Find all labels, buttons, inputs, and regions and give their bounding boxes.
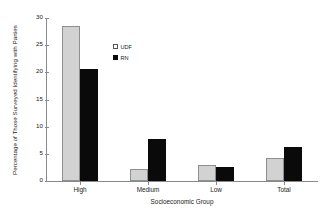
x-axis-line bbox=[46, 181, 318, 182]
y-tick-mark bbox=[45, 127, 49, 128]
legend-label: UDF bbox=[121, 44, 133, 50]
bar bbox=[130, 169, 148, 181]
legend-item: UDF bbox=[113, 41, 159, 52]
bar bbox=[198, 165, 216, 181]
legend-item: RN bbox=[113, 52, 159, 63]
x-tick-label: High bbox=[73, 186, 86, 193]
y-tick-mark bbox=[45, 154, 49, 155]
legend: UDFRN bbox=[113, 41, 159, 63]
y-tick-mark bbox=[45, 181, 49, 182]
x-tick-label: Total bbox=[277, 186, 291, 193]
y-tick-mark bbox=[45, 45, 49, 46]
bar bbox=[62, 26, 80, 181]
y-tick-mark bbox=[45, 18, 49, 19]
x-axis-title: Socioeconomic Group bbox=[46, 198, 318, 205]
bar bbox=[216, 167, 234, 181]
y-tick-label: 30 bbox=[36, 13, 43, 20]
x-tick-mark bbox=[284, 181, 285, 185]
legend-swatch-icon bbox=[113, 44, 118, 49]
x-tick-mark bbox=[80, 181, 81, 185]
x-tick-mark bbox=[148, 181, 149, 185]
y-tick-label: 15 bbox=[36, 95, 43, 102]
bar-chart: Percentage of Those Surveyed Identifying… bbox=[0, 0, 329, 219]
bar bbox=[80, 69, 98, 181]
x-tick-mark bbox=[216, 181, 217, 185]
y-tick-label: 0 bbox=[40, 176, 43, 183]
y-tick-label: 20 bbox=[36, 67, 43, 74]
y-tick-label: 5 bbox=[40, 149, 43, 156]
y-axis-title: Percentage of Those Surveyed Identifying… bbox=[8, 10, 22, 190]
bar bbox=[148, 139, 166, 181]
y-tick-label: 25 bbox=[36, 40, 43, 47]
y-tick-mark bbox=[45, 100, 49, 101]
legend-label: RN bbox=[121, 55, 129, 61]
bar bbox=[266, 158, 284, 181]
x-tick-label: Low bbox=[210, 186, 222, 193]
bar bbox=[284, 147, 302, 181]
y-tick-label: 10 bbox=[36, 122, 43, 129]
y-tick-mark bbox=[45, 72, 49, 73]
x-tick-label: Medium bbox=[137, 186, 160, 193]
legend-swatch-icon bbox=[113, 55, 118, 60]
plot-area: 051015202530 HighMediumLowTotal bbox=[46, 18, 318, 181]
